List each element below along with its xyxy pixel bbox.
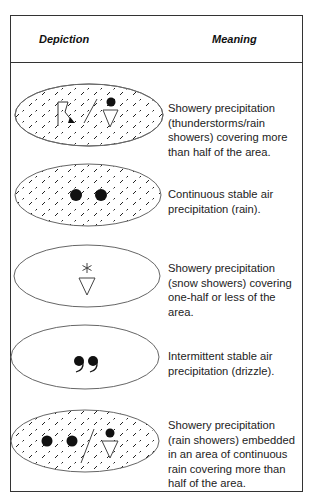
rain-dot-icon [95,189,107,201]
drizzle-comma-icon [88,356,98,372]
meaning-text: Showery precipitation (snow showers) cov… [168,261,296,319]
meaning-text: Continuous stable air precipitation (rai… [168,187,296,216]
meaning-text: Intermittent stable air precipitation (d… [168,349,296,378]
depiction-drizzle [11,325,159,389]
depiction-continuous-rain [15,164,161,226]
rain-dot-icon [107,98,116,107]
snow-asterisk-icon [83,263,92,273]
rain-dot-icon [67,436,78,447]
rain-dot-icon [70,189,82,201]
drizzle-comma-icon [74,356,84,372]
depiction-thunderstorm-showers [15,84,163,146]
rain-dot-icon [42,436,53,447]
rain-dot-icon [106,429,115,438]
depiction-embedded-rain-showers [11,410,159,472]
meaning-text: Showery precipitation (rain showers) emb… [168,418,296,491]
meaning-text: Showery precipitation (thunderstorms/rai… [168,101,296,159]
shower-triangle-icon [79,278,95,295]
depiction-snow-showers [14,245,160,307]
